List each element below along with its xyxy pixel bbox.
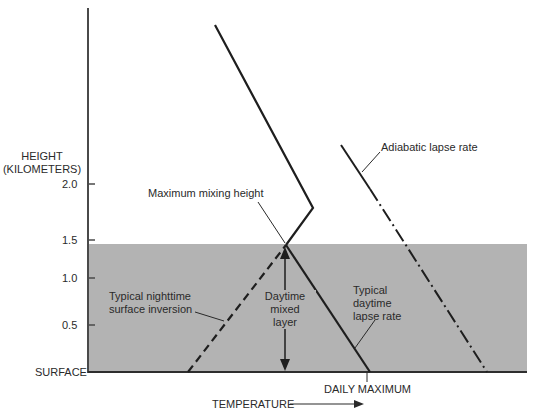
daytime-lapse-label: Typical daytime lapse rate: [353, 284, 401, 323]
nighttime-label-line1: Typical nighttime: [109, 290, 192, 303]
y-axis-title-line2: (KILOMETERS): [2, 163, 82, 176]
tick-label-0-5: 0.5: [62, 319, 77, 332]
max-mixing-height-label: Maximum mixing height: [148, 187, 264, 200]
tick-label-1-5: 1.5: [62, 234, 77, 247]
mixed-layer-line2: mixed: [254, 303, 316, 316]
mixed-layer-label: Daytime mixed layer: [254, 290, 316, 329]
daytime-label-line3: lapse rate: [353, 310, 401, 323]
daily-maximum-label: DAILY MAXIMUM: [324, 383, 411, 396]
temperature-arrow-head: [354, 400, 364, 408]
surface-label: SURFACE: [35, 366, 87, 379]
daytime-label-line2: daytime: [353, 297, 401, 310]
adiabatic-line-solid: [341, 145, 370, 189]
mixed-layer-line1: Daytime: [254, 290, 316, 303]
leader-adiabatic: [362, 152, 380, 172]
y-axis-title: HEIGHT (KILOMETERS): [2, 150, 82, 176]
mixed-layer-line3: layer: [254, 316, 316, 329]
adiabatic-label: Adiabatic lapse rate: [381, 141, 478, 154]
tick-label-1-0: 1.0: [62, 272, 77, 285]
leader-max-mixing: [258, 202, 285, 243]
nighttime-inversion-label: Typical nighttime surface inversion: [109, 290, 192, 316]
daytime-label-line1: Typical: [353, 284, 401, 297]
diagram-canvas: [0, 0, 535, 417]
temperature-label: TEMPERATURE: [212, 398, 294, 411]
y-axis-title-line1: HEIGHT: [2, 150, 82, 163]
nighttime-label-line2: surface inversion: [109, 303, 192, 316]
tick-label-2-0: 2.0: [62, 178, 77, 191]
